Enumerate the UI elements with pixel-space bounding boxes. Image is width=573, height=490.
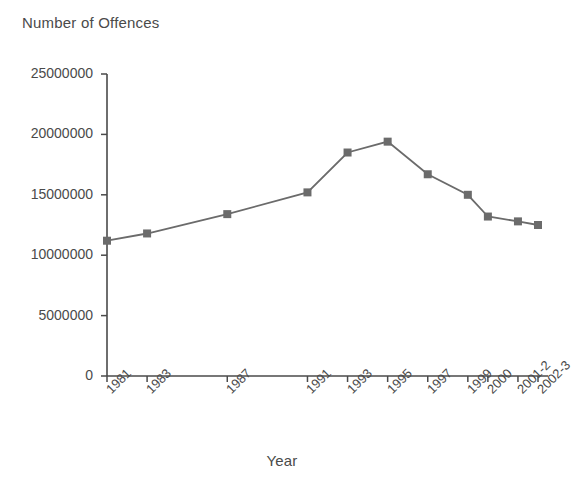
x-tick-label: 1993 [344, 366, 375, 397]
x-tick-label: 1991 [303, 366, 334, 397]
x-tick-label: 1997 [424, 366, 455, 397]
x-tick-label: 1995 [384, 366, 415, 397]
x-tick-label: 1987 [223, 366, 254, 397]
x-tick-label: 1983 [143, 366, 174, 397]
x-axis-title: Year [0, 452, 564, 469]
x-tick-label: 1981 [103, 366, 134, 397]
